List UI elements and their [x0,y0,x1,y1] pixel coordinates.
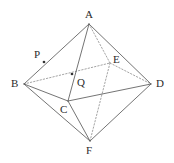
edge-A-C [68,24,89,101]
hidden-edges [24,24,151,141]
point-Q-marker [71,73,74,76]
geometry-figure: A B C D E F P Q [0,0,174,163]
point-label-p: P [34,49,40,60]
edge-A-E [89,24,110,63]
vertex-label-f: F [86,145,92,156]
point-P-marker [43,61,46,64]
edge-E-D [110,63,151,84]
vertex-label-c: C [60,104,67,115]
vertex-label-b: B [11,78,18,89]
edge-C-F [68,101,90,141]
edge-D-F [90,84,151,141]
edge-A-D [89,24,151,84]
vertex-label-d: D [156,78,164,89]
visible-edges [24,24,151,141]
vertex-label-a: A [85,9,93,20]
edge-E-F [90,63,110,141]
point-label-q: Q [77,77,85,88]
vertex-label-e: E [113,54,120,65]
edge-B-C [24,84,68,101]
edge-B-F [24,84,90,141]
edge-B-E [24,63,110,84]
octahedron-diagram [0,0,174,163]
